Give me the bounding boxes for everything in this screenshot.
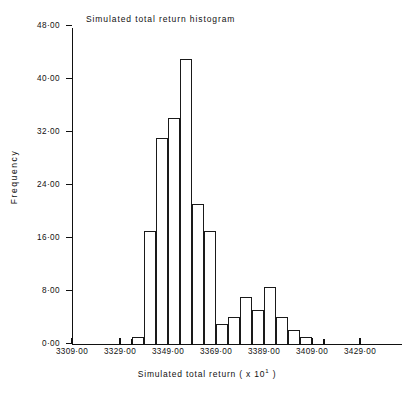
histogram-bar [192,204,204,343]
histogram-bar [156,138,168,343]
histogram-bar [168,118,180,343]
histogram-bar [132,337,144,344]
x-axis-title-tail: ) [269,369,276,379]
histogram-bars [0,0,414,400]
histogram-figure: Simulated total return histogram 0·008·0… [0,0,414,400]
histogram-bar [216,324,228,344]
histogram-bar [288,330,300,343]
x-axis-title: Simulated total return ( x 101 ) [0,368,414,379]
histogram-bar [252,310,264,343]
histogram-bar [228,317,240,344]
histogram-bar [204,231,216,344]
histogram-bar [264,287,276,343]
histogram-bar [180,59,192,344]
x-axis-title-text: Simulated total return ( x 10 [138,369,266,379]
histogram-bar [144,231,156,344]
histogram-bar [300,337,312,344]
y-axis-title: Frequency [9,127,19,227]
histogram-bar [276,317,288,344]
histogram-bar [240,297,252,343]
